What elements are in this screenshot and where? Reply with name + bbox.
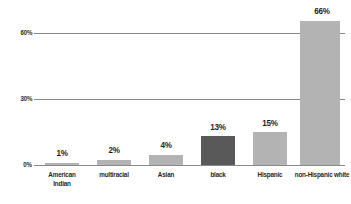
bar-multiracial[interactable] xyxy=(97,160,131,165)
bar-asian[interactable] xyxy=(149,155,183,165)
category-label-non-hispanic-white: non-Hispanic white xyxy=(293,170,351,179)
bar-value-asian: 4% xyxy=(141,140,191,150)
bar-group-hispanic: 15% Hispanic xyxy=(242,0,298,204)
bar-group-multiracial: 2% multiracial xyxy=(86,0,142,204)
bar-value-black: 13% xyxy=(193,122,243,132)
category-label-multiracial: multiracial xyxy=(89,170,139,179)
category-label-asian: Asian xyxy=(141,170,191,179)
bar-hispanic[interactable] xyxy=(253,132,287,165)
bar-non-hispanic-white[interactable] xyxy=(300,21,340,165)
bar-value-non-hispanic-white: 66% xyxy=(297,6,347,16)
bar-value-multiracial: 2% xyxy=(89,145,139,155)
bar-black[interactable] xyxy=(201,136,235,165)
bar-chart: 60% 30% 0% 1% American Indian 2% multira… xyxy=(0,0,351,204)
bar-group-black: 13% black xyxy=(190,0,246,204)
bars-layer: 1% American Indian 2% multiracial 4% Asi… xyxy=(0,0,351,204)
bar-value-hispanic: 15% xyxy=(245,118,295,128)
category-label-black: black xyxy=(193,170,243,179)
bar-value-american-indian: 1% xyxy=(37,148,87,158)
category-label-hispanic: Hispanic xyxy=(245,170,295,179)
category-label-american-indian: American Indian xyxy=(37,170,87,188)
bar-group-american-indian: 1% American Indian xyxy=(34,0,90,204)
bar-group-non-hispanic-white: 66% non-Hispanic white xyxy=(294,0,350,204)
bar-american-indian[interactable] xyxy=(45,163,79,165)
bar-group-asian: 4% Asian xyxy=(138,0,194,204)
